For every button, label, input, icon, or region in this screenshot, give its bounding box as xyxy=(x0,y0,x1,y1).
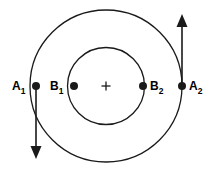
point-label-B1-subscript: 1 xyxy=(59,86,64,96)
point-dot-A2 xyxy=(178,82,186,90)
orbit-diagram: A1 B1 B2 A2 xyxy=(0,0,218,175)
point-label-A1-letter: A xyxy=(12,79,21,93)
point-label-B2: B2 xyxy=(150,79,164,96)
point-label-A2: A2 xyxy=(189,79,203,96)
point-label-B2-letter: B xyxy=(150,79,159,93)
velocity-arrow-up xyxy=(177,14,188,84)
point-label-A1-subscript: 1 xyxy=(21,86,26,96)
point-dot-A1 xyxy=(32,82,40,90)
point-label-A2-subscript: 2 xyxy=(198,86,203,96)
point-label-B1: B1 xyxy=(50,79,64,96)
point-label-A1: A1 xyxy=(12,79,26,96)
point-label-A2-letter: A xyxy=(189,79,198,93)
point-dot-B2 xyxy=(139,82,147,90)
center-cross-icon xyxy=(102,82,111,91)
point-label-B2-subscript: 2 xyxy=(159,86,164,96)
diagram-canvas: A1 B1 B2 A2 xyxy=(0,0,218,175)
point-label-B1-letter: B xyxy=(50,79,59,93)
point-dot-B1 xyxy=(70,82,78,90)
